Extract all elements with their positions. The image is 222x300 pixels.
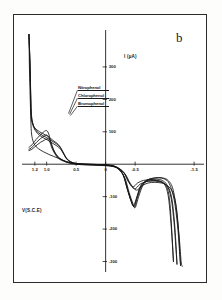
curve-nitrophenol	[29, 34, 174, 261]
legend-rule-0	[78, 90, 109, 91]
legend-leader-line-0	[69, 90, 78, 113]
x-tick-label: 0	[104, 167, 106, 172]
curve-bromophenol	[29, 34, 181, 265]
x-axis-caption: V(S.C.E)	[22, 208, 42, 213]
y-tick-label: -200	[109, 226, 118, 231]
curve-chlorophenol	[29, 34, 177, 264]
y-tick-label: -300	[109, 259, 118, 264]
y-tick-label: 200	[109, 97, 116, 102]
y-tick-label: 100	[109, 129, 116, 134]
x-tick-label: 0.5	[73, 167, 79, 172]
x-tick-label: -1.5	[190, 167, 197, 172]
panel-letter: b	[176, 30, 183, 46]
legend-label-1: Chlorophenol	[78, 93, 104, 98]
y-tick-label: 300	[109, 64, 116, 69]
voltammogram-plot	[0, 0, 222, 300]
legend-leader-lines	[69, 90, 78, 115]
curve-bromophenol-return	[29, 139, 181, 266]
curve-chlorophenol-return	[29, 135, 177, 264]
y-tick-label: -100	[109, 194, 118, 199]
legend-label-0: Nitrophenol	[78, 85, 100, 90]
x-tick-label: -0.5	[131, 167, 138, 172]
legend-rule-1	[78, 98, 109, 99]
figure-root: b I (µA) V(S.C.E) 1.21.00.50-0.5-1.5 300…	[0, 0, 222, 300]
curve-nitrophenol-return	[29, 130, 174, 261]
legend-label-2: Bromophenol	[78, 101, 104, 106]
y-axis-caption: I (µA)	[124, 54, 137, 59]
legend-rule-2	[78, 106, 109, 107]
x-tick-label: 1.2	[32, 167, 38, 172]
x-tick-label: 1.0	[44, 167, 50, 172]
